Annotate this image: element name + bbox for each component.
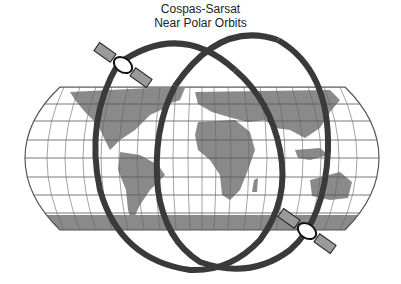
solar-panel-left bbox=[94, 43, 116, 63]
solar-panel-right bbox=[314, 234, 336, 254]
diagram-canvas bbox=[0, 0, 401, 284]
solar-panel-right bbox=[130, 68, 152, 88]
